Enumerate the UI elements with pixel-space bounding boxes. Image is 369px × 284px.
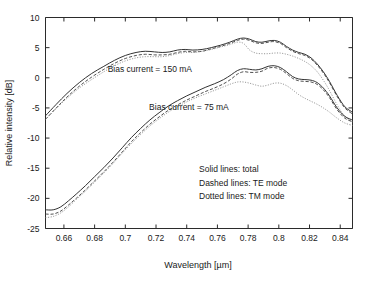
y-axis-title: Relative intensity [dB] [4, 80, 14, 167]
x-tick-label-0.72: 0.72 [148, 233, 165, 243]
annotation-0: Bias current = 150 mA [108, 64, 193, 74]
relative-intensity-spectrum-chart: 0.660.680.70.720.740.760.780.80.820.84 -… [0, 0, 369, 284]
y-tick-label-10: 10 [30, 13, 40, 23]
y-tick-label--5: -5 [32, 103, 40, 113]
legend-entry-0: Solid lines: total [199, 164, 259, 174]
x-tick-label-0.76: 0.76 [209, 233, 226, 243]
x-tick-label-0.84: 0.84 [332, 233, 349, 243]
x-tick-label-0.66: 0.66 [56, 233, 73, 243]
y-tick-label-5: 5 [35, 43, 40, 53]
x-tick-label-0.7: 0.7 [119, 233, 131, 243]
x-tick-label-0.78: 0.78 [240, 233, 257, 243]
figure-container: 0.660.680.70.720.740.760.780.80.820.84 -… [0, 0, 369, 284]
x-tick-label-0.82: 0.82 [301, 233, 318, 243]
y-tick-label--20: -20 [27, 193, 40, 203]
x-tick-label-0.8: 0.8 [273, 233, 285, 243]
x-axis-title: Wavelength [µm] [164, 260, 231, 270]
legend-entry-1: Dashed lines: TE mode [199, 178, 287, 188]
y-tick-label--10: -10 [27, 133, 40, 143]
y-tick-label--25: -25 [27, 224, 40, 234]
y-tick-label--15: -15 [27, 163, 40, 173]
y-tick-label-0: 0 [35, 73, 40, 83]
x-tick-label-0.68: 0.68 [86, 233, 103, 243]
annotation-1: Bias current = 75 mA [149, 102, 229, 112]
legend-entry-2: Dotted lines: TM mode [199, 191, 285, 201]
x-tick-label-0.74: 0.74 [178, 233, 195, 243]
